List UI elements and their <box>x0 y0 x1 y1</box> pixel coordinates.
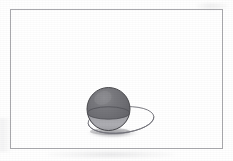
sphere-diagram-canvas <box>0 0 233 161</box>
figure-root <box>0 0 233 161</box>
